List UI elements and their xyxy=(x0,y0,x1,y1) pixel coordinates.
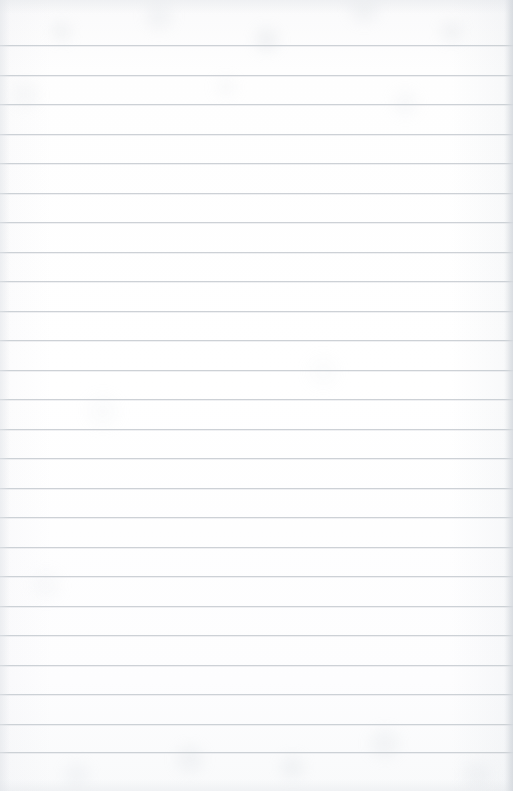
scanned-paper-page xyxy=(0,0,513,791)
page-edge-shadow xyxy=(0,0,513,791)
